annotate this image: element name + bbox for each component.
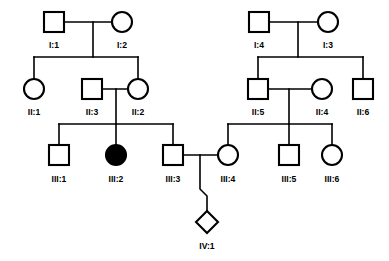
label-iii-6: III:6 <box>325 174 340 184</box>
label-i-1: I:1 <box>49 40 59 50</box>
pedigree-canvas: I:1I:2I:4I:3II:1II:3II:2II:5II:4II:6III:… <box>0 0 389 261</box>
connector-descent-to-IV1 <box>200 155 207 213</box>
symbol-iii-4 <box>218 145 238 165</box>
symbol-ii-1 <box>24 79 44 99</box>
symbol-iii-2 <box>106 145 126 165</box>
label-ii-4: II:4 <box>316 107 329 117</box>
symbol-iii-5 <box>279 145 299 165</box>
label-i-2: I:2 <box>117 40 127 50</box>
symbol-i-2 <box>112 12 132 32</box>
label-iv-1: IV:1 <box>199 241 215 251</box>
symbol-ii-6 <box>353 79 373 99</box>
symbol-ii-2 <box>128 79 148 99</box>
label-ii-6: II:6 <box>357 107 370 117</box>
label-i-4: I:4 <box>254 40 264 50</box>
symbol-iii-1 <box>49 145 69 165</box>
label-ii-3: II:3 <box>86 107 99 117</box>
symbol-iii-3 <box>163 145 183 165</box>
symbol-i-3 <box>318 12 338 32</box>
label-iii-4: III:4 <box>221 174 236 184</box>
label-ii-1: II:1 <box>28 107 41 117</box>
label-iii-2: III:2 <box>109 174 124 184</box>
label-iii-1: III:1 <box>52 174 67 184</box>
symbol-iv-1 <box>196 211 218 233</box>
symbol-ii-5 <box>248 79 268 99</box>
symbol-i-1 <box>44 12 64 32</box>
symbol-ii-3 <box>82 79 102 99</box>
pedigree-chart: I:1I:2I:4I:3II:1II:3II:2II:5II:4II:6III:… <box>0 0 389 261</box>
label-iii-3: III:3 <box>166 174 181 184</box>
symbol-ii-4 <box>312 79 332 99</box>
label-iii-5: III:5 <box>282 174 297 184</box>
label-i-3: I:3 <box>323 40 333 50</box>
symbol-i-4 <box>249 12 269 32</box>
symbol-iii-6 <box>322 145 342 165</box>
connector-lines-group <box>34 22 363 213</box>
label-ii-5: II:5 <box>252 107 265 117</box>
individual-symbols-group <box>24 12 373 233</box>
label-ii-2: II:2 <box>132 107 145 117</box>
